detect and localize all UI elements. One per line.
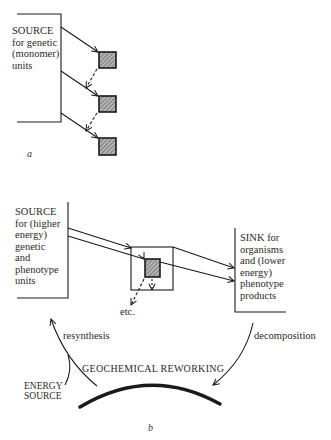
geochemical-arc — [80, 385, 220, 407]
arrow-source-unit-1 — [61, 27, 98, 52]
dashed-arrow-etc — [131, 279, 144, 305]
resynthesis-label: resynthesis — [63, 330, 110, 342]
energy-source-label: ENERGY SOURCE — [24, 381, 63, 401]
arrow-source-unit-3 — [61, 113, 98, 138]
caption-b: b — [148, 422, 153, 433]
energy-connector — [65, 355, 70, 385]
reworking-label: GEOCHEMICAL REWORKING — [82, 363, 224, 375]
arrow-source-unit-2 — [61, 71, 98, 96]
dashed-arrow-1-2 — [86, 69, 97, 88]
source-label-a: SOURCE for genetic (monomer) units — [12, 25, 59, 71]
arrow-square-sink-2 — [160, 262, 234, 281]
sink-label: SINK for organisms and (lower energy) ph… — [240, 232, 285, 301]
arrow-box-sink-1 — [173, 247, 234, 268]
source-label-b: SOURCE for (higher energy) genetic and p… — [15, 206, 60, 287]
decomposition-arrow — [213, 323, 253, 385]
etc-label: etc. — [120, 306, 135, 318]
decomposition-label: decomposition — [254, 330, 316, 342]
unit-square-1 — [99, 52, 116, 68]
organism-square — [145, 259, 160, 277]
caption-a: a — [27, 148, 32, 159]
unit-square-2 — [99, 96, 116, 112]
dashed-arrow-2-3 — [86, 113, 97, 131]
unit-square-3 — [99, 138, 116, 155]
